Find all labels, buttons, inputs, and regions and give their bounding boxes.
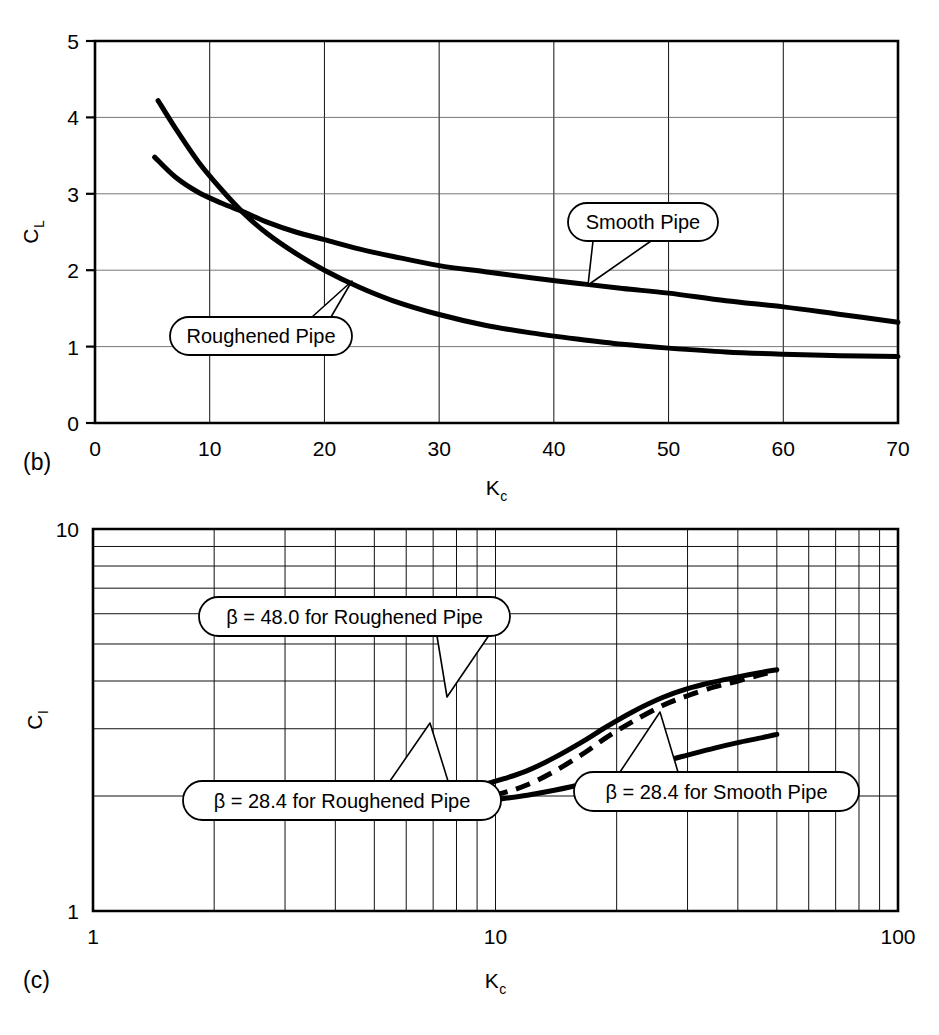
xaxis-title-b: Kc (486, 476, 508, 504)
xtick-label-30: 30 (427, 437, 450, 460)
ytick-label-0: 0 (67, 412, 79, 435)
yaxis-title-b-text: CL (19, 220, 47, 244)
xaxis-title-c-text: Kc (485, 969, 507, 997)
callout-label-c-2: β = 28.4 for Smooth Pipe (605, 781, 827, 803)
curve-smooth-pipe (155, 157, 898, 322)
ytick-label-10: 10 (56, 518, 79, 541)
xtick-label-60: 60 (772, 437, 795, 460)
callout-label-c-0: β = 48.0 for Roughened Pipe (226, 606, 483, 628)
xtick-label-50: 50 (657, 437, 680, 460)
xtick-label-10: 10 (198, 437, 221, 460)
ytick-label-4: 4 (67, 106, 79, 129)
ytick-label-1: 1 (67, 336, 79, 359)
panel-label-b: (b) (23, 449, 51, 475)
xaxis-title-b-subscript: c (500, 488, 507, 504)
xtick-label-0: 0 (89, 437, 101, 460)
xaxis-title-c-subscript: c (499, 981, 506, 997)
xtick-label-10: 10 (484, 925, 507, 948)
figure-canvas: 010203040506070012345Smooth PipeRoughene… (0, 0, 939, 1035)
callout-label-c-1: β = 28.4 for Roughened Pipe (214, 790, 471, 812)
xtick-label-20: 20 (313, 437, 336, 460)
xaxis-title-b-text: Kc (486, 476, 508, 504)
callout-tail-c-1 (390, 723, 448, 781)
panel-label-c: (c) (23, 967, 50, 993)
yaxis-title-c: CI (23, 710, 51, 730)
xtick-label-70: 70 (886, 437, 909, 460)
callout-label-b-1: Roughened Pipe (186, 325, 335, 347)
ytick-label-2: 2 (67, 259, 79, 282)
yaxis-title-c-text: CI (23, 710, 51, 730)
yaxis-title-b-subscript: L (31, 220, 47, 228)
xtick-label-100: 100 (880, 925, 915, 948)
figure-root: 010203040506070012345Smooth PipeRoughene… (0, 0, 939, 1035)
ytick-label-3: 3 (67, 183, 79, 206)
xaxis-title-c: Kc (485, 969, 507, 997)
panel-c-chart: 110100110β = 48.0 for Roughened Pipeβ = … (23, 518, 916, 997)
ytick-label-1: 1 (67, 900, 79, 923)
callout-label-b-0: Smooth Pipe (586, 211, 701, 233)
plot-frame-b (95, 41, 898, 423)
xtick-label-1: 1 (87, 925, 99, 948)
ytick-label-5: 5 (67, 30, 79, 53)
callout-tail-b-1 (312, 281, 352, 317)
yaxis-title-b: CL (19, 220, 47, 244)
xtick-label-40: 40 (542, 437, 565, 460)
callout-tail-b-0 (588, 241, 651, 285)
panel-b-chart: 010203040506070012345Smooth PipeRoughene… (19, 30, 910, 504)
yaxis-title-c-subscript: I (35, 710, 51, 714)
callout-tail-c-0 (437, 636, 489, 697)
